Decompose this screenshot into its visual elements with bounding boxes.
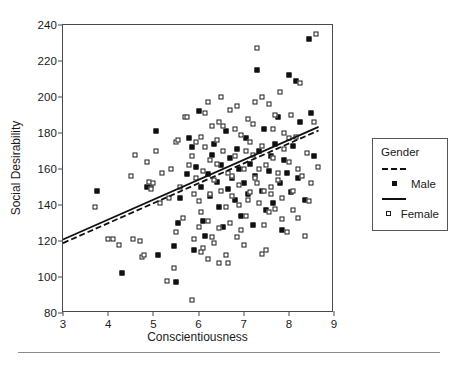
x-tick-mark: [198, 311, 199, 316]
regression-line-male: [63, 130, 319, 243]
x-tick-mark: [63, 311, 64, 316]
y-axis-title-text: Social Desirability: [9, 121, 23, 216]
y-axis-title: Social Desirability: [8, 24, 24, 312]
legend-row-female-line: [381, 191, 439, 206]
x-tick-mark: [288, 311, 289, 316]
plot-area: 80100120140160180200220240 3456789: [62, 24, 333, 312]
legend-title: Gender: [381, 146, 439, 158]
x-tick-mark: [243, 311, 244, 316]
x-axis-title-text: Conscientiousness: [147, 330, 248, 344]
footer-divider: [18, 352, 440, 353]
regression-line-female: [63, 127, 319, 240]
x-tick-mark: [334, 311, 335, 316]
open-square-icon: [381, 211, 397, 216]
regression-lines: [63, 25, 332, 311]
legend-row-male-line: [381, 161, 439, 176]
solid-line-icon: [381, 198, 407, 200]
scatter-plot-figure: Social Desirability 80100120140160180200…: [0, 0, 458, 368]
filled-square-icon: [381, 181, 407, 186]
x-tick-mark: [108, 311, 109, 316]
dashed-line-icon: [381, 168, 407, 170]
x-tick-mark: [153, 311, 154, 316]
legend-label-female: Female: [397, 208, 439, 220]
legend-row-male: Male: [381, 176, 439, 191]
legend-box: Gender Male Female: [372, 138, 448, 231]
legend-label-male: Male: [407, 178, 436, 190]
legend-row-female: Female: [381, 206, 439, 221]
x-axis-title: Conscientiousness: [62, 330, 333, 344]
